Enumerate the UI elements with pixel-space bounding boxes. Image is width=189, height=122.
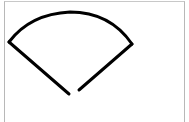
arc-stroke: [9, 12, 132, 44]
right-line-stroke: [79, 44, 132, 90]
left-line-stroke: [9, 42, 69, 94]
sketch-drawing: [0, 0, 189, 122]
